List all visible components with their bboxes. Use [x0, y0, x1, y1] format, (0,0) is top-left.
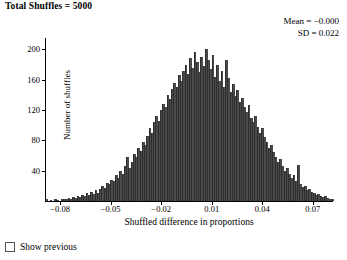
x-tick-label: 0.04 — [242, 204, 282, 214]
histogram-bars — [45, 38, 333, 201]
x-tick-mark — [313, 202, 314, 205]
histogram-bar — [56, 200, 59, 201]
plot-area: Number of shuffles — [45, 38, 333, 201]
show-previous-control[interactable]: Show previous — [5, 242, 77, 252]
checkbox-icon[interactable] — [5, 242, 15, 252]
show-previous-label: Show previous — [20, 242, 77, 252]
x-tick-mark — [161, 202, 162, 205]
x-axis-label: Shuffled difference in proportions — [45, 217, 333, 227]
x-tick-label: 0.01 — [192, 204, 232, 214]
x-tick-label: 0.07 — [293, 204, 333, 214]
x-tick-mark — [111, 202, 112, 205]
x-tick-label: −0.02 — [141, 204, 181, 214]
x-tick-mark — [60, 202, 61, 205]
x-tick-mark — [262, 202, 263, 205]
histogram-bar — [331, 199, 334, 201]
x-tick-label: −0.08 — [40, 204, 80, 214]
histogram-applet: Total Shuffles = 5000 Mean = −0.000 SD =… — [0, 0, 347, 260]
histogram-bar — [50, 200, 53, 201]
y-axis-label: Number of shuffles — [62, 40, 72, 170]
histogram-bar — [45, 199, 48, 201]
x-tick-label: −0.05 — [91, 204, 131, 214]
x-tick-mark — [212, 202, 213, 205]
